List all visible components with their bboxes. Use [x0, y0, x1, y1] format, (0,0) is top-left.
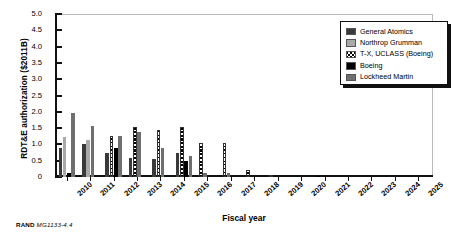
x-tick-label: 2010 — [75, 180, 94, 198]
legend-swatch-icon — [346, 74, 356, 82]
bar-group — [176, 14, 199, 177]
x-tick-mark — [137, 177, 138, 181]
legend-item: T-X, UCLASS (Boeing) — [346, 49, 443, 60]
y-tick-label: 0.5 — [2, 156, 42, 165]
bar — [63, 137, 67, 177]
bar — [82, 144, 86, 177]
x-tick-label: 2022 — [356, 180, 375, 198]
y-tick-label: 2.0 — [2, 107, 42, 116]
bar — [129, 158, 133, 177]
bar-group — [105, 14, 128, 177]
bar — [180, 127, 184, 177]
x-tick-label: 2011 — [98, 180, 116, 198]
legend-swatch-icon — [346, 28, 356, 36]
bar — [105, 153, 109, 177]
legend-item-label: Lockheed Martin — [360, 73, 413, 81]
bar — [189, 156, 193, 177]
bar — [118, 136, 122, 177]
figure-chart: RDT&E authorization ($2011B) Fiscal year… — [0, 0, 454, 244]
bar-group — [59, 14, 82, 177]
x-tick-mark — [325, 177, 326, 181]
x-tick-mark — [348, 177, 349, 181]
x-tick-label: 2017 — [239, 180, 258, 198]
legend-item: General Atomics — [346, 26, 443, 37]
bar — [246, 170, 250, 177]
bar — [161, 148, 165, 177]
bar-group — [269, 14, 292, 177]
x-tick-label: 2015 — [192, 180, 211, 198]
legend-item-label: Boeing — [360, 62, 382, 70]
legend-item-label: General Atomics — [360, 28, 413, 36]
legend-swatch-icon — [346, 51, 356, 59]
bar-group — [152, 14, 175, 177]
y-tick-label: 5.0 — [2, 9, 42, 18]
bar-group — [82, 14, 105, 177]
bar — [157, 130, 161, 177]
bar-group — [129, 14, 152, 177]
bar — [86, 140, 90, 177]
x-tick-mark — [301, 177, 302, 181]
x-tick-label: 2024 — [403, 180, 422, 198]
y-tick-label: 3.0 — [2, 74, 42, 83]
bar — [71, 113, 75, 177]
bar-group — [293, 14, 316, 177]
bar — [176, 153, 180, 177]
y-tick-label: 3.5 — [2, 58, 42, 67]
x-tick-mark — [278, 177, 279, 181]
legend-item: Northrop Grumman — [346, 37, 443, 48]
x-tick-mark — [184, 177, 185, 181]
x-tick-label: 2013 — [145, 180, 164, 198]
x-tick-mark — [67, 177, 68, 181]
x-tick-label: 2021 — [333, 180, 352, 198]
bar — [199, 143, 203, 177]
y-tick-label: 1.0 — [2, 139, 42, 148]
bar — [152, 159, 156, 177]
x-tick-label: 2012 — [122, 180, 141, 198]
x-tick-label: 2023 — [380, 180, 399, 198]
x-tick-mark — [90, 177, 91, 181]
bar — [133, 127, 137, 177]
x-tick-mark — [231, 177, 232, 181]
legend-item-label: T-X, UCLASS (Boeing) — [360, 50, 433, 58]
caption-prefix: RAND — [16, 221, 35, 228]
y-tick-label: 4.0 — [2, 42, 42, 51]
legend-swatch-icon — [346, 39, 356, 47]
legend-item-label: Northrop Grumman — [360, 39, 422, 47]
x-tick-label: 2025 — [427, 180, 446, 198]
x-tick-label: 2019 — [286, 180, 305, 198]
x-tick-mark — [160, 177, 161, 181]
x-tick-mark — [371, 177, 372, 181]
bar — [184, 161, 188, 177]
bar-group — [199, 14, 222, 177]
bar — [316, 176, 320, 177]
bar — [59, 148, 63, 177]
x-tick-label: 2016 — [216, 180, 235, 198]
chart-legend: General AtomicsNorthrop GrummanT-X, UCLA… — [340, 21, 448, 85]
bar — [223, 143, 227, 177]
caption-id: MG1133-4.4 — [37, 221, 73, 228]
x-tick-mark — [418, 177, 419, 181]
y-tick-label: 0 — [2, 172, 42, 181]
y-tick-label: 4.5 — [2, 25, 42, 34]
bar — [269, 175, 273, 177]
legend-item: Boeing — [346, 60, 443, 71]
bar — [91, 126, 95, 177]
bar — [114, 148, 118, 177]
x-tick-mark — [395, 177, 396, 181]
x-tick-mark — [207, 177, 208, 181]
x-tick-mark — [254, 177, 255, 181]
bar-group — [223, 14, 246, 177]
bar — [110, 136, 114, 177]
figure-caption: RAND MG1133-4.4 — [16, 221, 73, 228]
x-tick-label: 2014 — [169, 180, 188, 198]
bar-group — [246, 14, 269, 177]
x-axis-title: Fiscal year — [40, 213, 448, 223]
y-tick-label: 1.5 — [2, 123, 42, 132]
x-tick-label: 2018 — [263, 180, 282, 198]
legend-swatch-icon — [346, 62, 356, 70]
x-tick-mark — [114, 177, 115, 181]
legend-item: Lockheed Martin — [346, 72, 443, 83]
bar-group — [316, 14, 339, 177]
x-tick-label: 2020 — [309, 180, 328, 198]
y-tick-label: 2.5 — [2, 91, 42, 100]
